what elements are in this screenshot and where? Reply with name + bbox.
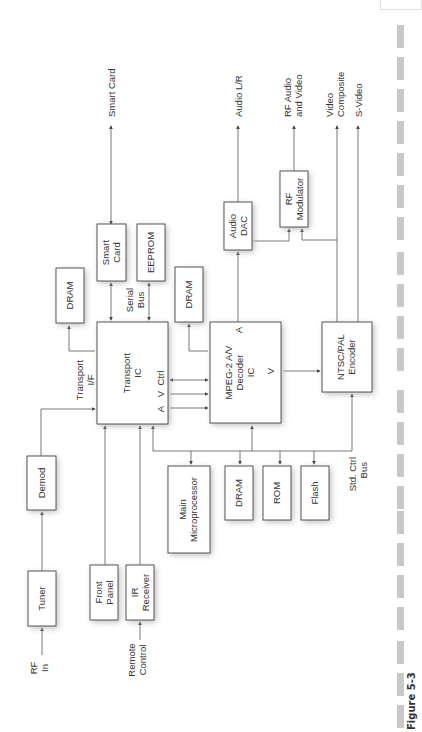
smart-card-label-line2: Card — [111, 242, 122, 263]
main-micro-label-line1: Main — [177, 499, 188, 520]
rf-modulator-label-line1: RF — [283, 192, 294, 205]
front-panel-label-line1: Front — [93, 581, 104, 604]
front-panel-label-line2: Panel — [104, 580, 115, 604]
connections — [41, 126, 358, 655]
dram-transport-block: DRAM — [56, 268, 86, 325]
main-micro-label-line2: Microprocessor — [188, 477, 199, 542]
s-video-label: S-Video — [353, 83, 364, 117]
eeprom-label: EEPROM — [145, 232, 156, 273]
dram-bus-block: DRAM — [225, 466, 255, 522]
rf-modulator-label-line2: Modulator — [294, 178, 305, 220]
audio-dac-label-line2: DAC — [238, 216, 249, 236]
std-ctrl-bus-label-line1: Std. Ctrl — [347, 457, 358, 491]
front-panel-block: Front Panel — [90, 565, 120, 622]
flash-label: Flash — [309, 481, 320, 504]
rf-audio-video-label-line2: and Video — [293, 74, 304, 117]
smart-card-label-line1: Smart — [100, 239, 111, 265]
ntsc-pal-label-line1: NTSC/PAL — [335, 334, 346, 380]
main-microprocessor-block: Main Microprocessor — [168, 466, 212, 555]
transport-ic-label-line2: IC — [132, 368, 143, 378]
dram-bus-label: DRAM — [233, 479, 244, 507]
transport-ic-block: Transport IC A V Ctrl — [97, 322, 170, 426]
transport-ic-label-line1: Transport — [121, 352, 132, 393]
ntsc-pal-label-line2: Encoder — [346, 339, 357, 374]
ir-receiver-label-line2: Receiver — [140, 574, 151, 612]
transport-if-label-line2: I/F — [85, 374, 96, 385]
rf-in-label-line1: RF — [28, 661, 39, 674]
video-composite-label-line2: Composite — [335, 72, 346, 117]
set-top-box-block-diagram: Tuner Demod Front Panel IR Receiver Tran… — [0, 0, 422, 732]
dram-transport-label: DRAM — [64, 281, 75, 309]
ir-receiver-block: IR Receiver — [126, 565, 156, 622]
transport-if-label-line1: Transport — [74, 359, 85, 400]
ir-receiver-label-line1: IR — [129, 588, 140, 598]
serial-bus-label-line1: Serial — [124, 288, 135, 312]
mpeg-port-v: V — [265, 367, 276, 374]
demod-block: Demod — [27, 456, 58, 512]
smart-card-block: Smart Card — [97, 224, 128, 283]
signal-labels: RF In Remote Control Transport I/F Seria… — [28, 68, 369, 676]
dram-decoder-label: DRAM — [183, 280, 194, 308]
tuner-block: Tuner — [28, 571, 58, 628]
figure-sidebar-rule — [397, 25, 404, 728]
video-composite-label-line1: Video — [324, 93, 335, 117]
mpeg2-decoder-label-line1: MPEG-2 A/V — [223, 345, 234, 400]
audio-lr-label: Audio L/R — [233, 75, 244, 117]
rf-audio-video-label-line1: RF Audio — [282, 78, 293, 117]
audio-dac-label-line1: Audio — [227, 214, 238, 238]
std-ctrl-bus-label-line2: Bus — [358, 462, 369, 479]
dram-decoder-block: DRAM — [175, 267, 205, 324]
transport-port-ctrl: Ctrl — [155, 371, 166, 386]
rom-block: ROM — [263, 466, 293, 522]
remote-control-label-line2: Control — [137, 645, 148, 676]
audio-dac-block: Audio DAC — [224, 202, 254, 252]
rom-label: ROM — [271, 482, 282, 504]
serial-bus-label-line2: Bus — [135, 292, 146, 309]
mpeg2-decoder-label-line3: IC — [245, 368, 256, 378]
rf-in-label-line2: In — [39, 664, 50, 672]
figure-caption: Figure 5-3 — [406, 672, 417, 730]
transport-port-v: V — [155, 390, 166, 397]
rf-modulator-block: RF Modulator — [280, 171, 310, 229]
transport-port-a: A — [155, 405, 166, 412]
tuner-label: Tuner — [36, 586, 47, 610]
demod-label: Demod — [36, 468, 47, 499]
ntsc-pal-encoder-block: NTSC/PAL Encoder — [322, 322, 374, 394]
mpeg-port-a: A — [233, 326, 244, 333]
flash-block: Flash — [301, 466, 331, 522]
remote-control-label-line1: Remote — [126, 643, 137, 676]
smart-card-out-label: Smart Card — [106, 68, 117, 117]
eeprom-block: EEPROM — [137, 224, 167, 283]
mpeg2-decoder-label-line2: Decoder — [234, 355, 245, 391]
mpeg2-decoder-block: MPEG-2 A/V Decoder IC A V — [210, 322, 283, 425]
